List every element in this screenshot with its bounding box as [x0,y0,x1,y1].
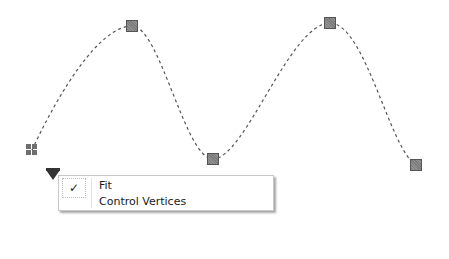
menu-item-label: Fit [99,177,112,194]
control-vertex-grip[interactable] [410,159,422,171]
control-vertex-grip[interactable] [126,20,138,32]
menu-item-fit[interactable]: ✓ Fit [59,177,273,194]
control-vertex-grip[interactable] [324,17,336,29]
control-vertex-grip[interactable] [207,153,219,165]
menu-item-label: Control Vertices [99,193,186,210]
menu-item-control-vertices[interactable]: Control Vertices [59,193,273,210]
spline-curve [32,23,416,165]
spline-canvas [0,0,449,259]
start-grip-icon[interactable] [26,144,38,156]
context-menu: ✓ Fit Control Vertices [58,175,274,211]
